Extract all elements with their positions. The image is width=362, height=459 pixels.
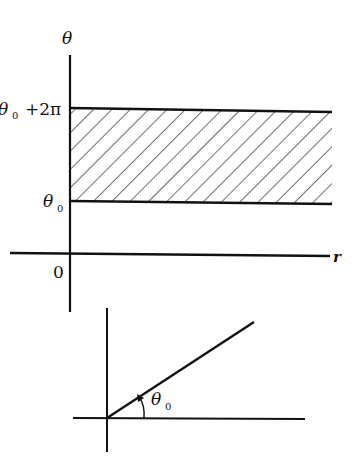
svg-text:+2π: +2π (25, 99, 61, 119)
svg-text:θ: θ (151, 389, 161, 409)
svg-text:0: 0 (165, 401, 171, 412)
lower-bound-label: θ 0 (43, 191, 63, 214)
theta-axis-label: θ (62, 28, 72, 48)
angle-label: θ 0 (151, 389, 171, 412)
top-diagram: θ r 0 θ 0 +2π θ 0 (0, 28, 342, 312)
svg-text:0: 0 (57, 203, 63, 214)
svg-text:0: 0 (12, 110, 18, 121)
polar-strip-diagram: θ r 0 θ 0 +2π θ 0 θ 0 (0, 0, 362, 459)
svg-text:θ: θ (0, 99, 8, 119)
svg-text:θ: θ (43, 191, 53, 211)
r-axis (10, 253, 330, 256)
bottom-diagram: θ 0 (73, 308, 305, 452)
upper-bound-label: θ 0 +2π (0, 99, 61, 121)
r-axis-label: r (333, 248, 342, 266)
hatched-region (71, 106, 333, 206)
origin-label: 0 (53, 262, 64, 282)
angle-ray (107, 322, 254, 418)
